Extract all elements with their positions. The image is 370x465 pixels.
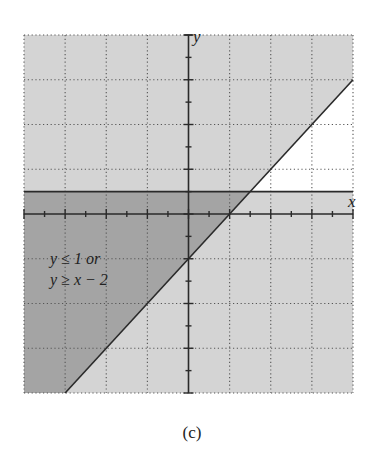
inequality-graph: y x y ≤ 1 or y ≥ x − 2 (c)	[0, 0, 370, 465]
annotation-line-2: y ≥ x − 2	[48, 271, 108, 289]
figure-caption: (c)	[183, 423, 202, 442]
y-axis-label: y	[191, 27, 201, 46]
x-axis-label: x	[347, 192, 356, 211]
annotation-line-1: y ≤ 1 or	[48, 250, 101, 268]
